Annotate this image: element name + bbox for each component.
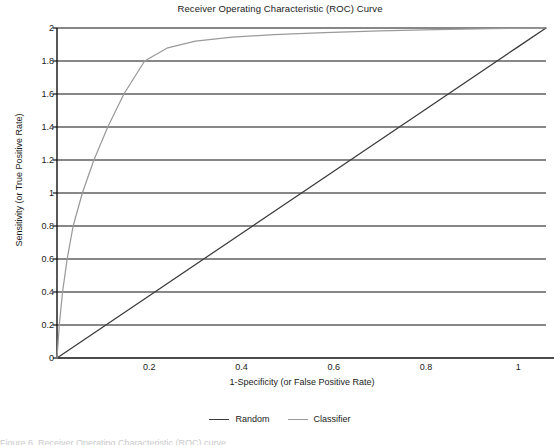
legend-item[interactable]: Random xyxy=(209,414,269,424)
legend-swatch-icon xyxy=(288,419,308,420)
legend-item[interactable]: Classifier xyxy=(288,414,351,424)
plot-canvas xyxy=(0,0,560,445)
legend-label: Random xyxy=(235,414,269,424)
legend-swatch-icon xyxy=(209,419,229,420)
footer-caption-cutoff: Figure 6. Receiver Operating Characteris… xyxy=(0,438,560,445)
chart-legend: RandomClassifier xyxy=(0,414,560,424)
gridlines xyxy=(57,28,546,325)
legend-label: Classifier xyxy=(314,414,351,424)
roc-chart: Receiver Operating Characteristic (ROC) … xyxy=(0,0,560,445)
